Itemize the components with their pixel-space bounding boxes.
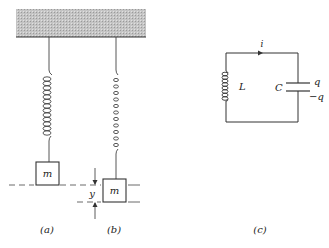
diagram-canvas: m m [0, 0, 329, 248]
inductor-coil [222, 71, 228, 101]
spring-a [43, 37, 52, 162]
capacitor [286, 83, 310, 91]
mass-b: m [103, 179, 126, 202]
ceiling [16, 9, 146, 37]
charge-bottom-label: −q [309, 91, 324, 102]
caption-c: (c) [253, 224, 267, 235]
mass-b-label: m [110, 185, 119, 196]
mass-a-label: m [43, 168, 52, 179]
caption-b: (b) [107, 224, 121, 235]
displacement-label: y [88, 188, 95, 199]
caption-a: (a) [40, 224, 54, 235]
spring-b [114, 37, 119, 179]
mass-a: m [36, 162, 59, 185]
charge-top-label: q [314, 76, 320, 87]
current-arrow [258, 51, 263, 56]
lc-circuit [226, 53, 298, 122]
inductor-label: L [238, 81, 246, 92]
current-label: i [261, 39, 264, 49]
capacitor-label: C [275, 82, 283, 93]
